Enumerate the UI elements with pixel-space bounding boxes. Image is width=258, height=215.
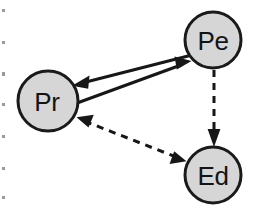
node-pe[interactable]: Pe: [185, 12, 241, 68]
margin-tick: [2, 167, 5, 170]
edge-ed-to-pr: [77, 115, 187, 164]
margin-tick: [2, 103, 5, 106]
graph-svg: Pe Pr Ed: [0, 0, 258, 215]
margin-artifacts: [2, 9, 5, 199]
margin-tick: [2, 9, 5, 12]
edge-pe-to-ed: [208, 70, 221, 147]
margin-tick: [2, 135, 5, 138]
node-ed[interactable]: Ed: [185, 147, 241, 203]
diagram-canvas: Pe Pr Ed: [0, 0, 258, 215]
node-pe-label: Pe: [197, 26, 228, 56]
node-pr[interactable]: Pr: [18, 71, 78, 131]
edge-ed-to-pr-line: [88, 123, 176, 158]
edge-ed-to-pr-arrowhead-at-ed: [170, 151, 187, 164]
margin-tick: [2, 72, 5, 76]
margin-tick: [2, 41, 5, 44]
edge-pe-to-ed-arrowhead: [208, 129, 221, 147]
node-pr-label: Pr: [34, 87, 60, 117]
node-ed-label: Ed: [197, 161, 228, 191]
edge-ed-to-pr-arrowhead-at-pr: [77, 115, 94, 128]
margin-tick: [2, 196, 5, 199]
